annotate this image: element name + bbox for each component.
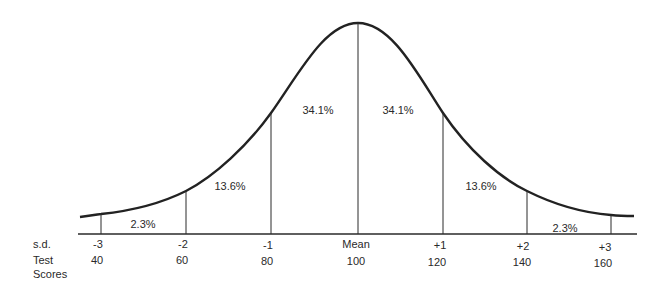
- sd-tick: Mean: [342, 238, 370, 250]
- band-label: 34.1%: [302, 104, 333, 116]
- band-label: 2.3%: [552, 222, 577, 234]
- score-tick: 140: [513, 256, 531, 268]
- score-tick: 60: [176, 254, 188, 266]
- sd-tick: -3: [93, 238, 103, 250]
- sd-tick: -1: [263, 239, 273, 251]
- band-label: 13.6%: [214, 180, 245, 192]
- band-label: 34.1%: [382, 104, 413, 116]
- sd-row-label: s.d.: [33, 238, 51, 251]
- sd-tick: +2: [517, 240, 530, 252]
- score-tick: 160: [594, 257, 612, 269]
- score-tick: 40: [91, 254, 103, 266]
- score-tick: 100: [347, 255, 365, 267]
- sd-tick: -2: [178, 238, 188, 250]
- bell-curve: [80, 23, 634, 217]
- scores-row-label-1: Test: [33, 254, 53, 267]
- score-tick: 120: [428, 256, 446, 268]
- scores-row-label-2: Scores: [33, 268, 67, 281]
- band-label: 2.3%: [130, 218, 155, 230]
- band-label: 13.6%: [465, 180, 496, 192]
- sd-tick: +1: [434, 239, 447, 251]
- sd-tick: +3: [599, 241, 612, 253]
- score-tick: 80: [261, 255, 273, 267]
- sd-lines: [101, 23, 611, 234]
